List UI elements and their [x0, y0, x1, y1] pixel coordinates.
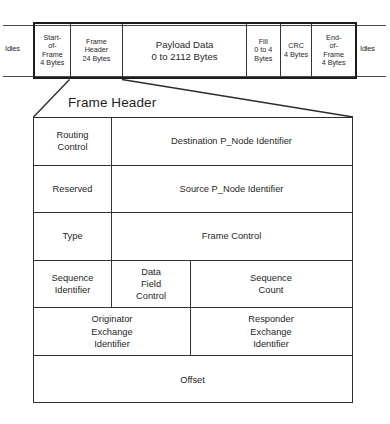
- idle-label-right: Idles: [360, 44, 375, 53]
- field-line: Offset: [180, 374, 205, 386]
- field-sequence-count: Sequence Count: [191, 261, 351, 308]
- table-row: Routing Control Destination P_Node Ident…: [34, 118, 352, 166]
- field-line: Count: [259, 284, 284, 296]
- field-line: Exchange: [250, 326, 291, 338]
- frame-cell-line: Payload Data: [156, 39, 214, 50]
- field-originator-exchange-identifier: Originator Exchange Identifier: [34, 308, 191, 355]
- table-row: Offset: [34, 356, 352, 404]
- field-line: Control: [58, 141, 88, 153]
- frame-cell-line: 0 to 2112 Bytes: [152, 51, 218, 62]
- table-row: Reserved Source P_Node Identifier: [34, 166, 352, 214]
- field-offset: Offset: [34, 356, 351, 404]
- field-line: Data: [141, 266, 161, 278]
- frame-cell-frame-header: Frame Header 24 Bytes: [71, 24, 124, 77]
- field-line: Field: [141, 278, 161, 290]
- field-line: Sequence: [250, 272, 292, 284]
- field-line: Sequence: [52, 272, 94, 284]
- field-line: Responder: [248, 313, 293, 325]
- field-line: Control: [136, 290, 166, 302]
- frame-cell-fill: Fill 0 to 4 Bytes: [247, 24, 281, 77]
- field-responder-exchange-identifier: Responder Exchange Identifier: [191, 308, 351, 355]
- field-line: Type: [62, 230, 82, 242]
- idle-label-left: Idles: [5, 44, 20, 53]
- field-line: Source P_Node Identifier: [180, 183, 284, 195]
- frame-cell-crc: CRC 4 Bytes: [281, 24, 313, 77]
- frame-cell-line: Bytes: [254, 55, 272, 63]
- frame-cell-line: 24 Bytes: [82, 55, 110, 63]
- field-type: Type: [34, 213, 112, 260]
- field-line: Exchange: [91, 326, 132, 338]
- frame-strip: Start- of- Frame 4 Bytes Frame Header 24…: [33, 22, 357, 79]
- field-line: Frame Control: [202, 230, 261, 242]
- field-destination-p-node-identifier: Destination P_Node Identifier: [112, 118, 351, 165]
- page-title: Frame Header: [68, 95, 156, 110]
- field-line: Identifier: [55, 284, 91, 296]
- table-row: Originator Exchange Identifier Responder…: [34, 308, 352, 356]
- field-reserved: Reserved: [34, 166, 112, 213]
- field-source-p-node-identifier: Source P_Node Identifier: [112, 166, 351, 213]
- frame-cell-end-of-frame: End- of- Frame 4 Bytes: [312, 24, 355, 77]
- table-row: Type Frame Control: [34, 213, 352, 261]
- field-line: Originator: [92, 313, 133, 325]
- frame-cell-payload-data: Payload Data 0 to 2112 Bytes: [123, 24, 247, 77]
- field-line: Routing: [56, 129, 88, 141]
- field-data-field-control: Data Field Control: [112, 261, 191, 308]
- field-line: Identifier: [94, 338, 130, 350]
- table-row: Sequence Identifier Data Field Control S…: [34, 261, 352, 309]
- frame-cell-line: 4 Bytes: [284, 51, 308, 59]
- frame-cell-start-of-frame: Start- of- Frame 4 Bytes: [35, 24, 71, 77]
- field-line: Destination P_Node Identifier: [171, 135, 292, 147]
- field-line: Identifier: [253, 338, 289, 350]
- field-routing-control: Routing Control: [34, 118, 112, 165]
- frame-cell-line: 4 Bytes: [40, 59, 64, 67]
- frame-header-field-table: Routing Control Destination P_Node Ident…: [33, 117, 353, 403]
- frame-format-diagram: Idles Idles Start- of- Frame 4 Bytes Fra…: [0, 0, 390, 424]
- frame-cell-line: 4 Bytes: [322, 59, 346, 67]
- field-sequence-identifier: Sequence Identifier: [34, 261, 112, 308]
- field-line: Reserved: [53, 183, 93, 195]
- field-frame-control: Frame Control: [112, 213, 351, 260]
